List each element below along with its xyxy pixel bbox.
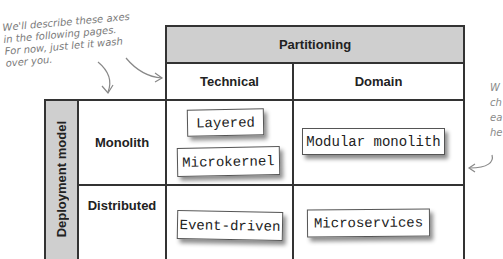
right-note-line-1: W: [490, 80, 503, 95]
grid-line: [77, 99, 79, 259]
right-annotation-note: W ch ea he: [490, 80, 503, 140]
style-card-microservices: Microservices: [307, 208, 430, 237]
grid-line: [44, 99, 46, 259]
column-header-domain: Domain: [293, 63, 464, 100]
right-note-line-3: ea: [490, 110, 503, 125]
style-card-modular-monolith: Modular monolith: [302, 128, 445, 155]
right-note-line-2: ch: [490, 95, 503, 110]
microservices-label: Microservices: [314, 215, 423, 232]
monolith-label: Monolith: [95, 135, 149, 150]
row-header-distributed: Distributed: [78, 185, 166, 225]
grid-line: [292, 62, 294, 259]
deployment-model-title: Deployment model: [54, 121, 69, 237]
event-driven-label: Event-driven: [179, 217, 280, 235]
style-card-microkernel: Microkernel: [177, 146, 280, 177]
style-card-event-driven: Event-driven: [177, 210, 283, 241]
distributed-label: Distributed: [88, 198, 157, 213]
grid-line: [44, 99, 465, 101]
layered-label: Layered: [196, 114, 255, 131]
microkernel-label: Microkernel: [182, 153, 275, 171]
grid-line: [166, 62, 465, 64]
domain-label: Domain: [355, 74, 403, 89]
grid-line: [463, 25, 465, 259]
style-card-layered: Layered: [187, 108, 264, 136]
grid-line: [165, 25, 167, 259]
right-note-line-4: he: [490, 125, 503, 140]
row-header-monolith: Monolith: [78, 100, 166, 185]
grid-line: [166, 25, 465, 27]
deployment-model-header: Deployment model: [45, 100, 78, 259]
technical-label: Technical: [200, 74, 259, 89]
partitioning-title: Partitioning: [279, 37, 351, 52]
column-header-technical: Technical: [166, 63, 293, 100]
modular-monolith-label: Modular monolith: [306, 134, 440, 150]
grid-line: [78, 184, 465, 186]
partitioning-header: Partitioning: [166, 26, 464, 63]
